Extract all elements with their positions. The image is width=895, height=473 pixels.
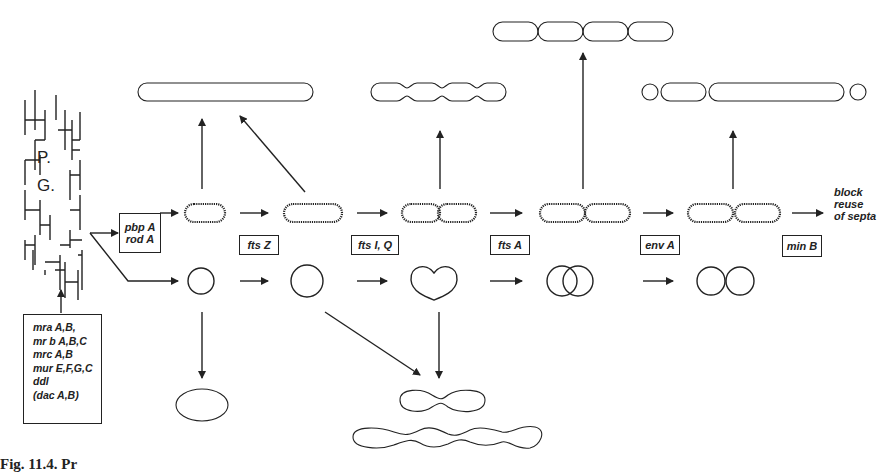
gene-label: pbp A bbox=[125, 221, 156, 233]
gene-label: mr b A,B,C bbox=[33, 335, 101, 349]
gene-box-ftsz: fts Z bbox=[239, 235, 279, 255]
gene-label: min B bbox=[787, 240, 818, 252]
end-label-line: block bbox=[834, 186, 876, 198]
gene-label: fts A bbox=[498, 239, 522, 251]
gene-label: (dac A,B) bbox=[33, 389, 101, 403]
synthesis-gene-box: mra A,B, mr b A,B,C mrc A,B mur E,F,G,C … bbox=[23, 314, 102, 424]
gene-box-ftsa: fts A bbox=[490, 235, 530, 255]
gene-box-ftsiq: fts I, Q bbox=[351, 235, 399, 255]
pg-label-p: P. bbox=[37, 148, 51, 168]
gene-box-enva: env A bbox=[640, 235, 680, 255]
end-label: block reuse of septa bbox=[834, 186, 876, 222]
end-label-line: reuse bbox=[834, 198, 876, 210]
gene-label: mur E,F,G,C bbox=[33, 362, 101, 376]
gene-label: mrc A,B bbox=[33, 348, 101, 362]
gene-label: env A bbox=[645, 239, 675, 251]
gene-label: fts Z bbox=[247, 239, 270, 251]
gene-label: mra A,B, bbox=[33, 321, 101, 335]
gene-label: rod A bbox=[126, 233, 154, 245]
gene-label: ddl bbox=[33, 375, 101, 389]
shape-gene-box: pbp A rod A bbox=[119, 213, 161, 253]
pg-label-g: G. bbox=[37, 176, 55, 196]
gene-box-minb: min B bbox=[782, 235, 822, 257]
figure-caption: Fig. 11.4. Pr bbox=[0, 456, 77, 473]
gene-label: fts I, Q bbox=[358, 239, 392, 251]
end-label-line: of septa bbox=[834, 210, 876, 222]
